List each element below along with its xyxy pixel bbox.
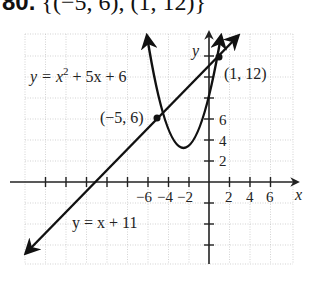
x-tick-label-m2: −2	[177, 189, 193, 205]
point-label-1: (−5, 6)	[100, 109, 144, 127]
line-equation-label: y = x + 11	[72, 214, 137, 232]
graph: y x −6 −4 −2 2 4 6 6 4 2 (−5, 6) (1, 12)…	[0, 0, 315, 307]
y-tick-label-6: 6	[219, 112, 227, 128]
intersection-point-1	[154, 115, 161, 122]
intersection-point-2	[216, 54, 223, 61]
x-tick-label-6: 6	[266, 189, 274, 205]
y-axis-label: y	[190, 42, 200, 60]
x-tick-label-m6: −6	[136, 189, 152, 205]
parabola-equation-label: y = x2 + 5x + 6	[28, 65, 127, 86]
y-tick-label-4: 4	[219, 133, 227, 149]
point-label-2: (1, 12)	[224, 65, 267, 83]
x-tick-label-4: 4	[246, 189, 254, 205]
x-tick-label-m4: −4	[157, 189, 173, 205]
x-tick-label-2: 2	[225, 189, 233, 205]
x-axis-label: x	[294, 186, 302, 203]
y-tick-label-2: 2	[219, 153, 227, 169]
